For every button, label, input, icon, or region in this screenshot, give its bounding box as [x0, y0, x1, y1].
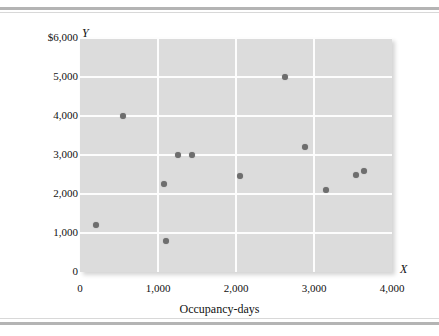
- horizontal-gridline: [80, 193, 392, 195]
- data-point: [353, 172, 359, 178]
- y-tick-label: 2,000: [6, 188, 78, 199]
- y-tick-label: 4,000: [6, 110, 78, 121]
- y-tick-label: 0: [6, 266, 78, 277]
- x-tick-label: 0: [50, 282, 110, 294]
- y-tick-label: 5,000: [6, 71, 78, 82]
- y-tick-label: 1,000: [6, 227, 78, 238]
- horizontal-gridline: [80, 37, 392, 39]
- scatter-plot-figure: Y X Total telephone costs Occupancy-days…: [0, 0, 439, 336]
- data-point: [237, 173, 243, 179]
- figure-top-rule-secondary: [0, 12, 439, 13]
- x-tick-label: 1,000: [128, 282, 188, 294]
- figure-top-rule: [0, 7, 439, 10]
- figure-bottom-rule: [0, 322, 439, 325]
- horizontal-gridline: [80, 154, 392, 156]
- data-point: [163, 238, 169, 244]
- plot-area: [80, 38, 392, 272]
- x-axis-symbol: X: [400, 262, 407, 277]
- horizontal-gridline: [80, 76, 392, 78]
- horizontal-gridline: [80, 232, 392, 234]
- data-point: [175, 152, 181, 158]
- horizontal-gridline: [80, 115, 392, 117]
- data-point: [361, 168, 367, 174]
- x-tick-label: 4,000: [362, 282, 422, 294]
- data-point: [282, 74, 288, 80]
- data-point: [161, 181, 167, 187]
- data-point: [93, 222, 99, 228]
- data-point: [302, 144, 308, 150]
- data-point: [189, 152, 195, 158]
- x-axis-title: Occupancy-days: [0, 302, 439, 317]
- y-tick-label: 3,000: [6, 149, 78, 160]
- y-tick-label: $6,000: [6, 32, 78, 43]
- figure-bottom-rule-secondary: [0, 318, 439, 319]
- data-point: [120, 113, 126, 119]
- x-tick-label: 3,000: [284, 282, 344, 294]
- x-tick-label: 2,000: [206, 282, 266, 294]
